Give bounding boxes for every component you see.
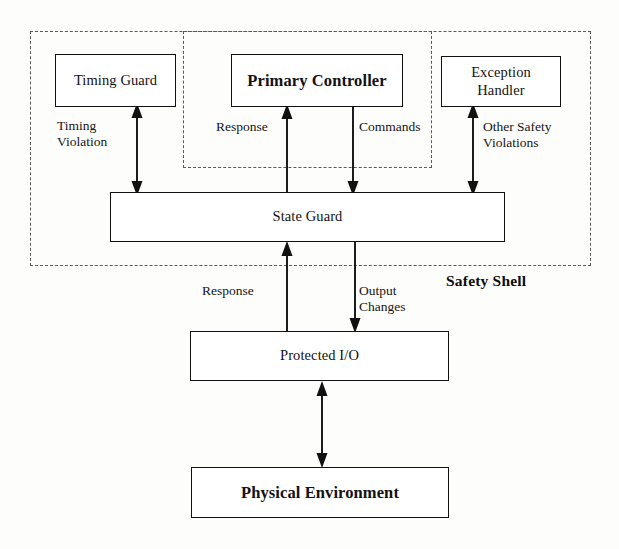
edge-label-commands: Commands — [359, 119, 421, 135]
node-state-guard-label: State Guard — [269, 208, 347, 225]
node-exception-handler[interactable]: Exception Handler — [441, 56, 561, 107]
node-exception-handler-label: Exception Handler — [442, 64, 560, 98]
node-primary-controller-label: Primary Controller — [243, 71, 390, 90]
edge-io-environment — [317, 381, 328, 468]
edge-label-timing-violation: Timing Violation — [57, 118, 107, 151]
node-timing-guard[interactable]: Timing Guard — [55, 54, 176, 107]
node-protected-io[interactable]: Protected I/O — [190, 331, 449, 381]
edge-label-response-lower: Response — [202, 283, 254, 299]
node-state-guard[interactable]: State Guard — [110, 192, 505, 242]
node-physical-environment[interactable]: Physical Environment — [191, 467, 449, 518]
node-primary-controller[interactable]: Primary Controller — [231, 54, 403, 107]
safety-shell-label: Safety Shell — [446, 272, 526, 290]
edge-label-response-upper: Response — [216, 119, 268, 135]
node-physical-environment-label: Physical Environment — [237, 483, 403, 502]
diagram-canvas: Timing Guard Primary Controller Exceptio… — [0, 0, 619, 549]
node-protected-io-label: Protected I/O — [276, 347, 363, 364]
node-timing-guard-label: Timing Guard — [70, 72, 161, 89]
edge-label-other-safety-violations: Other Safety Violations — [483, 119, 552, 152]
edge-label-output-changes: Output Changes — [359, 283, 406, 316]
